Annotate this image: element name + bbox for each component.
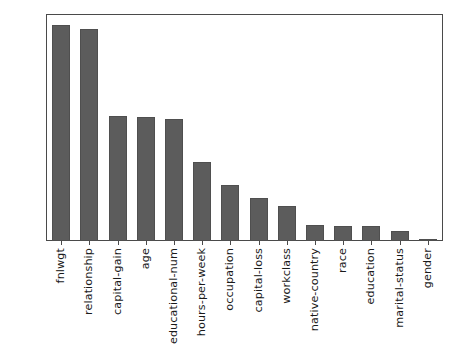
x-axis-tick-label: marital-status <box>393 248 406 328</box>
x-axis-tick-label: educational-num <box>167 248 180 344</box>
bar <box>193 162 211 241</box>
x-axis-tick-mark <box>174 241 175 245</box>
bar-chart-figure: 0.2000.1750.1500.1250.1000.0750.0500.025… <box>0 0 455 355</box>
bar <box>137 117 155 241</box>
x-axis-tick-mark <box>61 241 62 245</box>
x-axis-tick-mark <box>89 241 90 245</box>
x-axis-tick-label: occupation <box>223 248 236 311</box>
bar <box>109 116 127 241</box>
bar <box>52 25 70 241</box>
bar <box>391 231 409 241</box>
x-axis-tick-label: native-country <box>308 248 321 331</box>
x-axis-tick-label: capital-loss <box>252 248 265 312</box>
x-axis-tick-label: relationship <box>82 248 95 315</box>
x-axis-tick-label: capital-gain <box>111 248 124 315</box>
bar <box>278 206 296 241</box>
x-axis-tick-label: workclass <box>280 248 293 304</box>
x-axis-tick-mark <box>287 241 288 245</box>
bar <box>250 198 268 241</box>
bar <box>306 225 324 241</box>
x-axis-tick-mark <box>343 241 344 245</box>
x-axis-tick-label: fnlwgt <box>54 248 67 283</box>
x-axis-tick-mark <box>146 241 147 245</box>
y-axis: 0.2000.1750.1500.1250.1000.0750.0500.025… <box>0 0 46 355</box>
x-axis-tick-mark <box>118 241 119 245</box>
x-axis: fnlwgtrelationshipcapital-gainageeducati… <box>47 241 442 355</box>
x-axis-tick-label: hours-per-week <box>195 248 208 336</box>
bar <box>80 29 98 241</box>
bars-layer <box>47 15 442 241</box>
x-axis-tick-mark <box>230 241 231 245</box>
bar <box>221 185 239 241</box>
bar <box>334 226 352 241</box>
x-axis-tick-mark <box>400 241 401 245</box>
x-axis-tick-mark <box>371 241 372 245</box>
x-axis-tick-mark <box>202 241 203 245</box>
x-axis-tick-mark <box>315 241 316 245</box>
x-axis-tick-label: age <box>139 248 152 269</box>
bar <box>362 226 380 241</box>
x-axis-tick-mark <box>428 241 429 245</box>
x-axis-tick-label: gender <box>421 248 434 288</box>
x-axis-tick-mark <box>259 241 260 245</box>
x-axis-tick-label: education <box>364 248 377 304</box>
x-axis-tick-label: race <box>336 248 349 273</box>
bar <box>165 119 183 241</box>
